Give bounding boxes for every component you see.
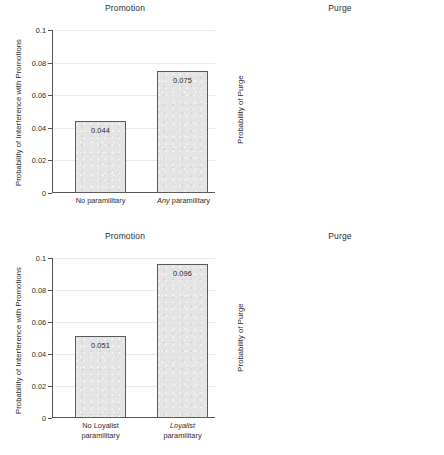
panel-title: Purge <box>222 231 444 241</box>
y-axis-line <box>52 30 53 193</box>
bar: 0.096 <box>157 264 208 418</box>
y-tick-mark <box>48 322 52 323</box>
y-axis-label: Probability of Interference with Promoti… <box>14 251 23 431</box>
plot-area: 00.020.040.060.080.1 0.051No Loyalistpar… <box>52 258 215 418</box>
y-tick-label: 0.1 <box>36 26 46 35</box>
y-tick-mark <box>48 290 52 291</box>
y-tick-mark <box>48 30 52 31</box>
bar-value-label: 0.075 <box>158 76 207 85</box>
gridline <box>53 258 215 259</box>
y-axis-label: Probability of Interference with Promoti… <box>14 23 23 203</box>
y-tick-label: 0.04 <box>32 123 46 132</box>
bar-value-label: 0.096 <box>158 269 207 278</box>
y-axis-label: Probability of Purge <box>236 47 245 172</box>
y-tick-label: 0.1 <box>36 254 46 263</box>
y-tick-label: 0.04 <box>32 350 46 359</box>
panel-title: Purge <box>222 3 444 13</box>
y-tick-mark <box>48 418 52 419</box>
panel-top-right: Purge Probability of Purge 00.020.040.06… <box>222 0 444 227</box>
y-tick-mark <box>48 95 52 96</box>
gridline <box>53 63 215 64</box>
panel-bottom-right: Purge Probability of Purge 00.020.040.06… <box>222 228 444 455</box>
y-tick-label: 0.08 <box>32 58 46 67</box>
y-tick-mark <box>48 193 52 194</box>
y-tick-mark <box>48 128 52 129</box>
bar-value-label: 0.051 <box>76 341 125 350</box>
plot-area: 00.020.040.060.080.1 0.044No paramilitar… <box>52 30 215 193</box>
y-tick-label: 0.06 <box>32 318 46 327</box>
y-tick-mark <box>48 63 52 64</box>
x-category-label: No paramilitary <box>75 196 126 206</box>
x-category-label: Any paramilitary <box>157 196 208 206</box>
panel-top-left: Promotion Probability of Interference wi… <box>0 0 222 227</box>
y-tick-label: 0 <box>42 414 46 423</box>
y-tick-mark <box>48 354 52 355</box>
x-category-label: No Loyalistparamilitary <box>75 421 126 440</box>
bar: 0.075 <box>157 71 208 193</box>
bar: 0.044 <box>75 121 126 193</box>
y-axis-line <box>52 258 53 418</box>
y-tick-label: 0 <box>42 189 46 198</box>
y-tick-label: 0.02 <box>32 156 46 165</box>
gridline <box>53 30 215 31</box>
panel-bottom-left: Promotion Probability of Interference wi… <box>0 228 222 455</box>
panel-title: Promotion <box>0 231 222 241</box>
figure-panel-grid: Promotion Probability of Interference wi… <box>0 0 444 455</box>
y-axis-label: Probability of Purge <box>236 275 245 400</box>
bar: 0.051 <box>75 336 126 418</box>
bar-value-label: 0.044 <box>76 126 125 135</box>
x-category-label: Loyalistparamilitary <box>157 421 208 440</box>
panel-title: Promotion <box>0 3 222 13</box>
y-tick-mark <box>48 258 52 259</box>
y-tick-label: 0.06 <box>32 91 46 100</box>
y-tick-label: 0.02 <box>32 382 46 391</box>
y-tick-mark <box>48 386 52 387</box>
y-tick-mark <box>48 160 52 161</box>
y-tick-label: 0.08 <box>32 286 46 295</box>
